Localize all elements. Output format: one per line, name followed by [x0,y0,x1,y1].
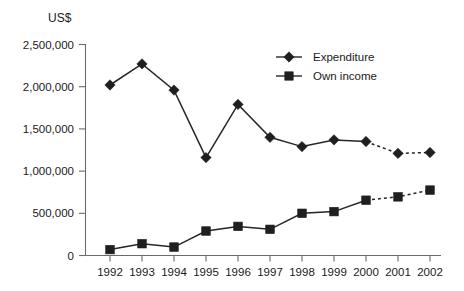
x-axis-ticks [110,256,430,262]
data-point-marker-expenditure [361,136,371,146]
x-tick-label: 1997 [257,266,283,278]
data-point-marker-expenditure [425,147,435,157]
x-tick-label: 1999 [321,266,347,278]
y-axis-unit-label: US$ [48,11,72,25]
data-point-marker-own-income [298,209,307,218]
x-tick-label: 2000 [353,266,379,278]
data-point-marker-own-income [266,225,275,234]
data-point-marker-own-income [426,186,435,195]
data-point-marker-own-income [202,227,211,236]
x-tick-label: 1993 [129,266,155,278]
x-axis-tick-labels: 1992199319941995199619971998199920002001… [97,266,443,278]
data-point-marker-own-income [138,239,147,248]
data-point-marker-expenditure [329,135,339,145]
y-tick-label: 0 [68,250,74,262]
y-axis-tick-labels: 2,500,000 2,000,000 1,500,000 1,000,000 … [23,39,74,262]
y-tick-label: 2,500,000 [23,39,74,51]
data-point-marker-own-income [106,245,115,254]
data-point-marker-expenditure [201,152,211,162]
x-tick-label: 1994 [161,266,187,278]
legend-square-icon [285,72,293,80]
y-tick-label: 500,000 [32,207,74,219]
y-tick-label: 1,500,000 [23,123,74,135]
series-markers [105,59,435,254]
x-tick-label: 2001 [385,266,411,278]
data-point-marker-expenditure [393,148,403,158]
series-lines [110,64,430,250]
y-axis-ticks [79,45,86,256]
data-point-marker-own-income [394,193,403,202]
x-tick-label: 1995 [193,266,219,278]
data-point-marker-own-income [330,207,339,216]
chart-canvas: US$ 2,500,000 2,000,000 1,500,000 1,000,… [0,0,464,291]
x-tick-label: 1996 [225,266,251,278]
line-chart-container: US$ 2,500,000 2,000,000 1,500,000 1,000,… [0,0,464,291]
y-tick-label: 1,000,000 [23,165,74,177]
chart-legend: Expenditure Own income [276,51,377,82]
data-point-marker-expenditure [105,80,115,90]
x-tick-label: 2002 [417,266,443,278]
legend-label-own-income: Own income [313,70,377,82]
x-tick-label: 1992 [97,266,123,278]
y-tick-label: 2,000,000 [23,81,74,93]
legend-diamond-icon [284,52,294,62]
data-point-marker-expenditure [297,141,307,151]
data-point-marker-own-income [234,222,243,231]
legend-label-expenditure: Expenditure [313,51,374,63]
data-point-marker-own-income [362,196,371,205]
data-point-marker-own-income [170,243,179,252]
x-tick-label: 1998 [289,266,315,278]
